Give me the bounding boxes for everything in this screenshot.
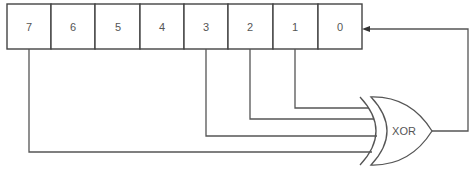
cell-label-7: 7 [26, 21, 32, 33]
cell-label-3: 3 [203, 21, 209, 33]
cell-label-6: 6 [70, 21, 76, 33]
cell-label-2: 2 [247, 21, 253, 33]
lfsr-diagram: 7 6 5 4 3 2 1 0 XOR [0, 0, 473, 172]
tap-wire-bit-3 [206, 49, 377, 136]
xor-gate-back-curve [360, 97, 376, 165]
feedback-wire [362, 26, 468, 131]
xor-gate-label: XOR [392, 125, 416, 137]
tap-wires [29, 49, 377, 152]
feedback-line [366, 29, 468, 131]
cell-label-1: 1 [292, 21, 298, 33]
cell-label-5: 5 [115, 21, 121, 33]
cell-label-0: 0 [337, 21, 343, 33]
arrowhead-icon [362, 26, 370, 32]
xor-gate: XOR [360, 97, 432, 165]
tap-wire-bit-1 [295, 49, 369, 108]
cell-label-4: 4 [159, 21, 165, 33]
shift-register: 7 6 5 4 3 2 1 0 [7, 4, 362, 49]
